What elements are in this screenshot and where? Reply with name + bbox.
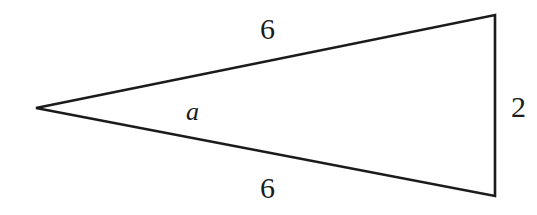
- label-base-length: 2: [511, 92, 526, 122]
- geometry-figure: 6 6 2 a: [0, 0, 537, 215]
- label-lower-side-length: 6: [260, 173, 275, 203]
- label-upper-side-length: 6: [260, 14, 275, 44]
- label-apex-angle: a: [186, 99, 199, 125]
